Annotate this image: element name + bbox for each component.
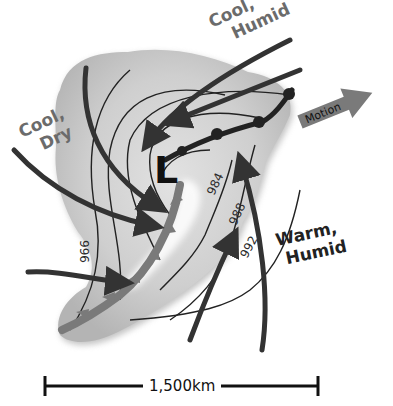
motion-label: Motion	[303, 100, 342, 126]
airmass-ne: Cool, Humid	[205, 0, 293, 50]
scale-label: 1,500km	[149, 377, 215, 395]
cyclone-diagram: L 984 988 992 996 Motion Cool, Dry Cool,…	[0, 0, 393, 406]
low-pressure-symbol: L	[154, 148, 178, 192]
scale-bar: 1,500km	[45, 376, 318, 396]
diagram-canvas: L 984 988 992 996 Motion Cool, Dry Cool,…	[0, 0, 393, 406]
motion-arrow: Motion	[294, 78, 378, 137]
isobar-label-996: 996	[77, 240, 91, 263]
airmass-se: Warm, Humid	[274, 216, 349, 269]
